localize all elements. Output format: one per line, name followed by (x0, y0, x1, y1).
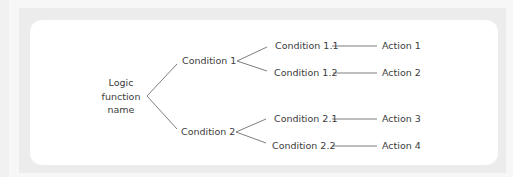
action-4-label: Action 4 (382, 140, 421, 152)
connector-root-condition-2 (147, 96, 177, 129)
connector-lines (0, 0, 513, 177)
connector-root-condition-1 (147, 64, 177, 96)
connector-condition-2-2 (236, 132, 266, 143)
root-label-line-2: function (95, 90, 147, 104)
condition-1-1-label: Condition 1.1 (275, 40, 338, 52)
connector-condition-2-1 (236, 119, 266, 132)
action-3-label: Action 3 (382, 113, 421, 125)
condition-2-1-label: Condition 2.1 (274, 113, 337, 125)
condition-2-label: Condition 2 (181, 126, 235, 138)
root-logic-function-name: Logic function name (95, 76, 147, 117)
root-label-line-3: name (95, 103, 147, 117)
action-1-label: Action 1 (382, 40, 421, 52)
action-2-label: Action 2 (382, 67, 421, 79)
condition-2-2-label: Condition 2.2 (272, 140, 335, 152)
condition-1-label: Condition 1 (182, 55, 236, 67)
root-label-line-1: Logic (95, 76, 147, 90)
connector-condition-1-2 (237, 61, 267, 71)
condition-1-2-label: Condition 1.2 (274, 67, 337, 79)
connector-condition-1-1 (237, 47, 267, 61)
